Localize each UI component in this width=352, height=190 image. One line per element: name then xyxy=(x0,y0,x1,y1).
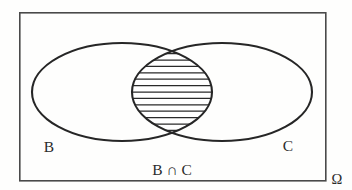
set-c-label: C xyxy=(283,137,293,154)
venn-diagram-canvas: B C B ∩ C Ω xyxy=(0,0,352,190)
venn-diagram-figure: B C B ∩ C Ω xyxy=(0,0,352,190)
universe-omega-label: Ω xyxy=(332,171,343,187)
set-b-label: B xyxy=(44,138,54,155)
intersection-label: B ∩ C xyxy=(152,161,192,178)
